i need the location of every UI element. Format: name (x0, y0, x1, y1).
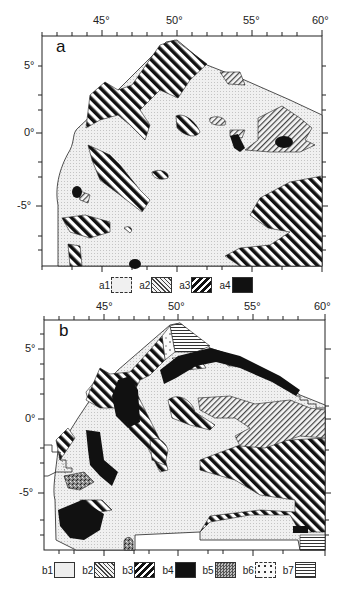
map-panel-b: 45° 50° 55° 60° 5° 0° -5° b b1 b2 b3 b4 … (0, 300, 348, 596)
y-tick-0-b: 0° (25, 412, 36, 424)
legend-a: a1 a2 a3 a4 (99, 277, 260, 293)
legend-item-b7: b7 (283, 562, 316, 578)
legend-item-a1: a1 (99, 277, 132, 293)
region-b7-se (300, 535, 325, 550)
legend-item-b2: b2 (82, 562, 115, 578)
legend-item-b3: b3 (122, 562, 155, 578)
legend-item-a2: a2 (139, 277, 172, 293)
y-tick-5s-a: -5° (17, 199, 31, 211)
region-a4-spot (275, 136, 293, 148)
map-a-canvas (0, 0, 348, 300)
swatch-bold-diagonal (134, 562, 155, 578)
swatch-dense-stipple (215, 562, 236, 578)
region-b4-east (293, 526, 308, 533)
swatch-fine-diagonal (151, 277, 172, 293)
legend-b: b1 b2 b3 b4 b5 b6 b7 (42, 562, 323, 578)
swatch-solid-black (175, 562, 196, 578)
legend-item-b1: b1 (42, 562, 75, 578)
swatch-fine-dot (54, 562, 75, 578)
region-a4-south (129, 259, 141, 269)
map-b-canvas (0, 300, 348, 596)
legend-item-a4: a4 (219, 277, 252, 293)
y-tick-5s-b: -5° (19, 486, 33, 498)
x-tick-50-a: 50° (166, 14, 183, 26)
map-panel-a: 45° 50° 55° 60° 5° 0° -5° a a1 a2 a3 a4 (0, 0, 348, 300)
swatch-fine-dot (111, 277, 132, 293)
legend-item-b5: b5 (203, 562, 236, 578)
panel-letter-a: a (56, 37, 65, 57)
swatch-bold-diagonal (191, 277, 212, 293)
swatch-sparse-dots (255, 562, 276, 578)
swatch-horizontal-lines (295, 562, 316, 578)
panel-letter-b: b (59, 321, 68, 341)
x-tick-55-b: 55° (244, 300, 261, 312)
region-a3-sw (68, 244, 82, 266)
x-tick-60-b: 60° (314, 300, 331, 312)
swatch-fine-diagonal (94, 562, 115, 578)
x-tick-45-a: 45° (93, 14, 110, 26)
x-tick-55-a: 55° (243, 14, 260, 26)
x-tick-50-b: 50° (168, 300, 185, 312)
swatch-solid-black (232, 277, 253, 293)
y-tick-5n-b: 5° (25, 342, 36, 354)
legend-item-b6: b6 (243, 562, 276, 578)
region-b5-south (124, 537, 133, 550)
y-tick-5n-a: 5° (24, 59, 35, 71)
x-tick-45-b: 45° (96, 300, 113, 312)
legend-item-a3: a3 (179, 277, 212, 293)
x-tick-60-a: 60° (312, 14, 329, 26)
legend-item-b4: b4 (162, 562, 195, 578)
y-tick-0-a: 0° (24, 126, 35, 138)
region-b7-north (170, 323, 210, 352)
region-a4-west (72, 186, 82, 198)
